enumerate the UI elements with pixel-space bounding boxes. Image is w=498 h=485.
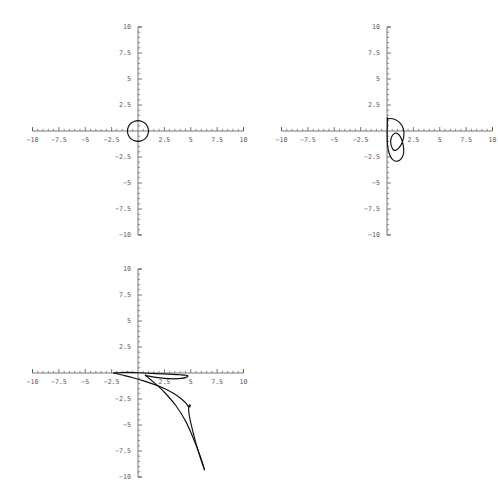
- x-tick-label: −5: [81, 378, 89, 386]
- y-tick-label: −7.5: [115, 205, 131, 213]
- y-tick-label: 5: [127, 317, 131, 325]
- x-tick-label: −10: [27, 136, 39, 144]
- plot-3-axes: −10−7.5−5−2.52.557.510107.552.5−2.5−5−7.…: [27, 265, 248, 481]
- x-tick-label: 7.5: [460, 136, 472, 144]
- y-tick-label: −5: [123, 179, 131, 187]
- y-tick-label: 10: [123, 23, 131, 31]
- plot-panel-2[interactable]: −10−7.5−5−2.52.557.510107.552.5−2.5−5−7.…: [249, 0, 498, 243]
- y-tick-label: −5: [123, 421, 131, 429]
- y-tick-label: −2.5: [364, 153, 380, 161]
- y-tick-label: 10: [372, 23, 380, 31]
- x-tick-label: 7.5: [211, 136, 223, 144]
- y-tick-label: −10: [119, 473, 131, 481]
- x-tick-label: 10: [240, 378, 248, 386]
- x-tick-label: −5: [330, 136, 338, 144]
- y-tick-label: 7.5: [368, 49, 380, 57]
- x-tick-label: 10: [489, 136, 497, 144]
- plot-2-curves: [387, 118, 404, 161]
- y-tick-label: −7.5: [364, 205, 380, 213]
- plot-panel-3[interactable]: −10−7.5−5−2.52.557.510107.552.5−2.5−5−7.…: [0, 242, 249, 485]
- x-tick-label: −2.5: [353, 136, 369, 144]
- plot-grid: −10−7.5−5−2.52.557.510107.552.5−2.5−5−7.…: [0, 0, 498, 485]
- plot-panel-empty: [249, 242, 498, 485]
- x-tick-label: −7.5: [300, 136, 316, 144]
- plot-3-svg: −10−7.5−5−2.52.557.510107.552.5−2.5−5−7.…: [0, 242, 249, 485]
- x-tick-label: −10: [27, 378, 39, 386]
- x-tick-label: −2.5: [104, 378, 120, 386]
- y-tick-label: −7.5: [115, 447, 131, 455]
- y-tick-label: 7.5: [119, 49, 131, 57]
- y-tick-label: 7.5: [119, 291, 131, 299]
- y-tick-label: −2.5: [115, 153, 131, 161]
- plot-1-axes: −10−7.5−5−2.52.557.510107.552.5−2.5−5−7.…: [27, 23, 248, 239]
- y-tick-label: 2.5: [368, 101, 380, 109]
- y-tick-label: 2.5: [119, 101, 131, 109]
- x-tick-label: −5: [81, 136, 89, 144]
- x-tick-label: 5: [189, 378, 193, 386]
- y-tick-label: −5: [372, 179, 380, 187]
- plot-panel-1[interactable]: −10−7.5−5−2.52.557.510107.552.5−2.5−5−7.…: [0, 0, 249, 243]
- x-tick-label: 5: [438, 136, 442, 144]
- plot-2-axes: −10−7.5−5−2.52.557.510107.552.5−2.5−5−7.…: [276, 23, 497, 239]
- x-tick-label: −7.5: [51, 136, 67, 144]
- y-tick-label: −10: [368, 231, 380, 239]
- y-tick-label: 5: [127, 75, 131, 83]
- x-tick-label: 2.5: [407, 136, 419, 144]
- x-tick-label: −2.5: [104, 136, 120, 144]
- y-tick-label: 5: [376, 75, 380, 83]
- x-tick-label: 2.5: [158, 136, 170, 144]
- x-tick-label: 10: [240, 136, 248, 144]
- y-tick-label: 2.5: [119, 343, 131, 351]
- plot-1-svg: −10−7.5−5−2.52.557.510107.552.5−2.5−5−7.…: [0, 0, 249, 243]
- curve-path: [387, 118, 404, 161]
- y-tick-label: −10: [119, 231, 131, 239]
- x-tick-label: −10: [276, 136, 288, 144]
- x-tick-label: −7.5: [51, 378, 67, 386]
- y-tick-label: −2.5: [115, 395, 131, 403]
- x-tick-label: 5: [189, 136, 193, 144]
- x-tick-label: 7.5: [211, 378, 223, 386]
- y-tick-label: 10: [123, 265, 131, 273]
- plot-2-svg: −10−7.5−5−2.52.557.510107.552.5−2.5−5−7.…: [249, 0, 498, 243]
